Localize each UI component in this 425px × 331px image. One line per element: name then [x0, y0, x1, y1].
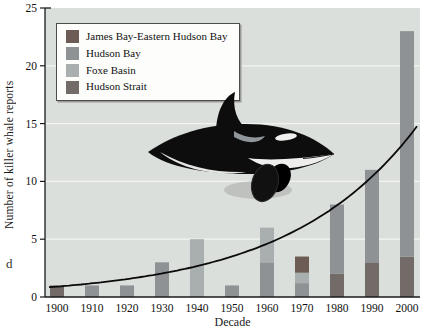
- x-tick-label: 1990: [361, 302, 384, 314]
- bar-segment-1910: [85, 285, 99, 297]
- bar-segment-2000: [400, 257, 414, 297]
- bar-segment-1980: [330, 274, 344, 297]
- legend-item: Foxe Basin: [66, 64, 227, 78]
- x-tick-label: 1960: [256, 302, 279, 314]
- legend-label: Foxe Basin: [86, 64, 136, 78]
- bar-segment-1990: [365, 262, 379, 297]
- bar-segment-1920: [120, 285, 134, 297]
- orca-illustration: [146, 90, 338, 208]
- x-tick-label: 2000: [396, 302, 419, 314]
- legend-label: James Bay-Eastern Hudson Bay: [86, 30, 227, 44]
- y-axis-ticks: 0510152025: [26, 2, 46, 303]
- legend-item: Hudson Bay: [66, 47, 227, 61]
- y-tick-label: 20: [26, 60, 38, 72]
- x-tick-label: 1950: [221, 302, 244, 314]
- bar-segment-1990: [365, 170, 379, 262]
- x-tick-label: 1980: [326, 302, 349, 314]
- bar-segment-1930: [155, 262, 169, 297]
- bar-segment-1970: [295, 257, 309, 273]
- bar-segment-1960: [260, 262, 274, 297]
- legend-item: James Bay-Eastern Hudson Bay: [66, 30, 227, 44]
- x-tick-label: 1920: [116, 302, 139, 314]
- legend-swatch: [66, 47, 79, 60]
- y-tick-label: 10: [26, 175, 38, 187]
- y-tick-label: 5: [31, 233, 37, 245]
- cropped-caption-fragment: d: [6, 256, 13, 272]
- legend-swatch: [66, 81, 79, 94]
- legend-swatch: [66, 30, 79, 43]
- y-tick-label: 25: [26, 2, 38, 14]
- x-tick-label: 1940: [186, 302, 209, 314]
- x-axis-labels: 1900191019201930194019501960197019801990…: [46, 302, 419, 314]
- bar-segment-1950: [225, 285, 239, 297]
- x-tick-label: 1900: [46, 302, 69, 314]
- x-axis-title: Decade: [120, 315, 345, 330]
- bar-segment-1980: [330, 205, 344, 274]
- legend-swatch: [66, 64, 79, 77]
- y-tick-label: 15: [26, 118, 38, 130]
- y-axis-title: Number of killer whale reports: [3, 50, 19, 260]
- orca-body: [148, 124, 334, 174]
- legend-label: Hudson Bay: [86, 47, 141, 61]
- legend-label: Hudson Strait: [86, 80, 147, 94]
- bar-segment-1970: [295, 273, 309, 283]
- x-tick-label: 1910: [81, 302, 104, 314]
- x-tick-label: 1970: [291, 302, 314, 314]
- y-tick-label: 0: [31, 291, 37, 303]
- x-tick-label: 1930: [151, 302, 174, 314]
- figure: 0510152025190019101920193019401950196019…: [0, 0, 425, 331]
- bar-segment-1970: [295, 283, 309, 297]
